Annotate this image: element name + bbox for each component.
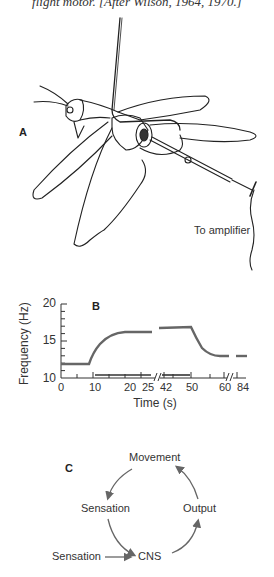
x-tick-60: 60	[219, 381, 231, 393]
node-movement: Movement	[129, 451, 180, 463]
y-axis-title: Frequency (Hz)	[17, 302, 31, 385]
x-tick-84: 84	[237, 381, 249, 393]
node-cns: CNS	[138, 550, 161, 562]
x-axis-title: Time (s)	[133, 396, 177, 410]
panel-a-label: A	[19, 126, 27, 138]
x-tick-50: 50	[186, 381, 198, 393]
y-tick-20: 20	[36, 296, 56, 310]
node-output: Output	[183, 502, 216, 514]
node-sensation-input: Sensation	[52, 550, 101, 562]
node-sensation-loop: Sensation	[81, 502, 130, 514]
panel-b-label: B	[92, 300, 100, 312]
panel-c-label: C	[65, 462, 73, 474]
x-tick-42: 42	[160, 381, 172, 393]
x-tick-10: 10	[89, 381, 101, 393]
y-tick-10: 10	[36, 371, 56, 385]
x-tick-0: 0	[58, 381, 64, 393]
locust-preparation-drawing	[0, 0, 274, 290]
x-tick-20: 20	[124, 381, 136, 393]
x-tick-25: 25	[142, 381, 154, 393]
y-tick-15: 15	[36, 333, 56, 347]
to-amplifier-annotation: To amplifier	[194, 224, 250, 236]
